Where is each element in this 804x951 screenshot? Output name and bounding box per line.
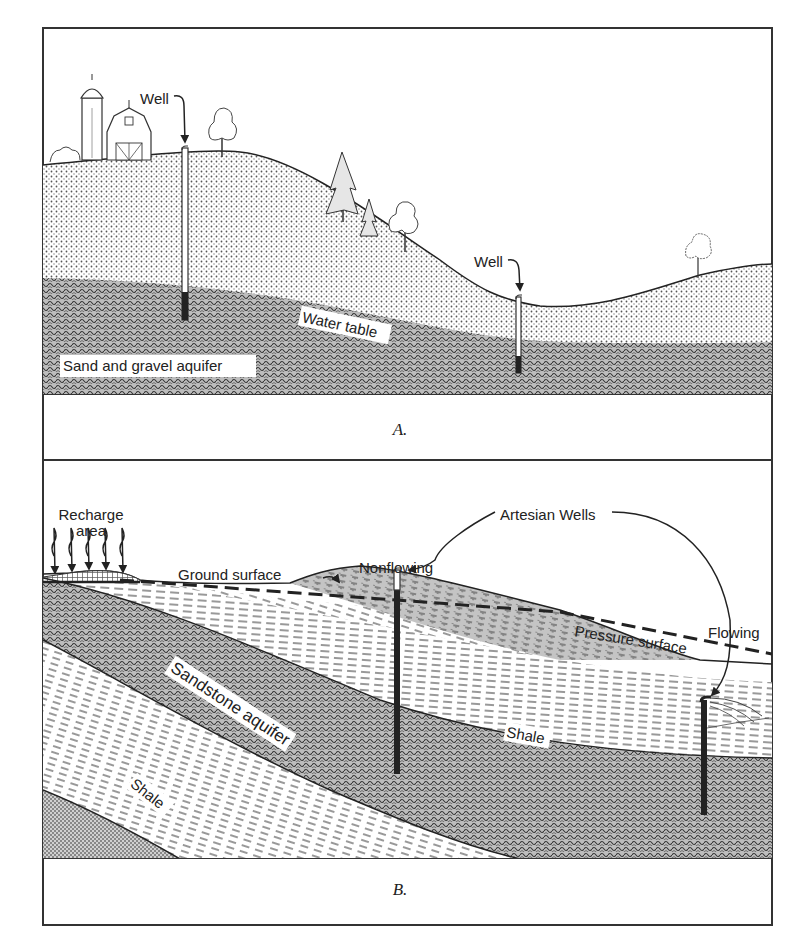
label-recharge-line2: area xyxy=(76,522,107,539)
label-sand-gravel-aquifer: Sand and gravel aquifer xyxy=(63,357,222,374)
label-ground-surface: Ground surface xyxy=(178,566,281,583)
bush-icon xyxy=(50,147,80,162)
label-nonflowing: Nonflowing xyxy=(359,559,433,576)
caption-a: A. xyxy=(392,420,408,439)
silo-icon xyxy=(81,74,103,160)
barn-icon xyxy=(107,100,151,160)
label-well-left: Well xyxy=(140,90,169,107)
panel-a xyxy=(43,74,772,395)
tree-icon xyxy=(209,108,237,157)
label-well-right: Well xyxy=(474,253,503,270)
well-left xyxy=(182,146,188,320)
tree-icon xyxy=(686,234,712,278)
caption-b: B. xyxy=(393,880,408,899)
label-flowing: Flowing xyxy=(708,624,760,641)
well-right xyxy=(516,295,522,373)
aquifer-diagram: Well Well Water table Sand and gravel aq… xyxy=(0,0,804,951)
label-artesian-wells: Artesian Wells xyxy=(500,506,596,523)
label-recharge-line1: Recharge xyxy=(58,506,123,523)
